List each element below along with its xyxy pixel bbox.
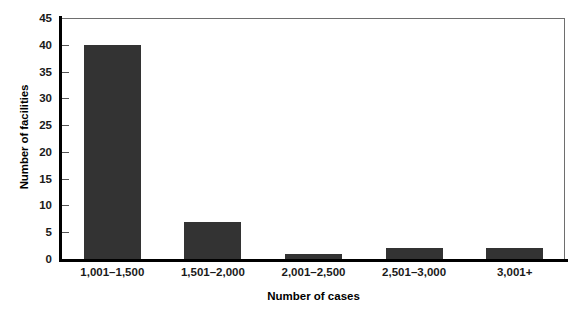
x-axis-tick-label: 2,501–3,000	[382, 266, 446, 278]
x-axis-tick-label-group: 1,001–1,5001,501–2,0002,001–2,5002,501–3…	[62, 266, 565, 284]
x-axis-title: Number of cases	[62, 290, 565, 302]
y-axis-tick-label: 5	[24, 226, 52, 238]
bar	[285, 254, 342, 259]
x-axis-line	[59, 259, 568, 262]
y-axis-tick-mark	[62, 72, 69, 73]
bar	[486, 248, 543, 259]
x-axis-tick-label: 1,001–1,500	[80, 266, 144, 278]
y-axis-tick-label: 25	[24, 119, 52, 131]
y-axis-tick-label: 35	[24, 66, 52, 78]
bar	[84, 45, 141, 259]
y-axis-tick-label: 15	[24, 173, 52, 185]
bar-series-group	[62, 18, 565, 259]
y-axis-tick-label: 0	[24, 253, 52, 265]
y-axis-tick-label-group: 051015202530354045	[24, 18, 52, 259]
y-axis-tick-label: 40	[24, 39, 52, 51]
y-axis-tick-label: 45	[24, 12, 52, 24]
y-axis-tick-mark	[62, 232, 69, 233]
y-axis-tick-mark	[62, 152, 69, 153]
bar	[386, 248, 443, 259]
bar	[184, 222, 241, 259]
y-axis-tick-mark	[62, 45, 69, 46]
x-axis-tick-label: 2,001–2,500	[282, 266, 346, 278]
x-axis-tick-label: 3,001+	[497, 266, 533, 278]
x-axis-tick-label: 1,501–2,000	[181, 266, 245, 278]
y-axis-tick-mark	[62, 98, 69, 99]
y-axis-tick-mark	[62, 205, 69, 206]
bar-chart-figure: Number of facilities 051015202530354045 …	[0, 0, 577, 312]
y-axis-tick-label: 10	[24, 199, 52, 211]
y-axis-tick-mark	[62, 125, 69, 126]
y-axis-tick-label: 30	[24, 92, 52, 104]
y-axis-tick-label: 20	[24, 146, 52, 158]
y-axis-tick-mark	[62, 179, 69, 180]
